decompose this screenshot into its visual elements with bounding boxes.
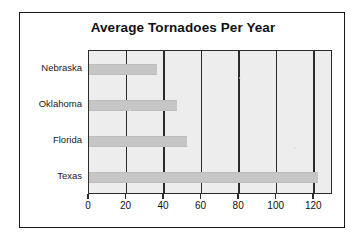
x-tick-label-60: 60 [181, 201, 221, 211]
x-tick-mark-60 [200, 194, 202, 199]
x-tick-label-0: 0 [68, 201, 108, 211]
bar-nebraska [89, 64, 157, 75]
category-label-florida: Florida [22, 135, 82, 145]
x-tick-label-20: 20 [106, 201, 146, 211]
x-tick-mark-80 [237, 194, 239, 199]
x-tick-mark-40 [162, 194, 164, 199]
bar-oklahoma [89, 100, 177, 111]
category-label-oklahoma: Oklahoma [22, 99, 82, 109]
plot-area [88, 50, 332, 194]
bar-row [89, 129, 332, 153]
bar-texas [89, 172, 318, 183]
bar-row [89, 165, 332, 189]
x-tick-label-120: 120 [293, 201, 333, 211]
bar-row [89, 57, 332, 81]
x-tick-mark-100 [275, 194, 277, 199]
chart-title: Average Tornadoes Per Year [20, 20, 346, 35]
x-tick-mark-20 [125, 194, 127, 199]
x-tick-label-80: 80 [218, 201, 258, 211]
category-label-nebraska: Nebraska [22, 63, 82, 73]
x-tick-mark-0 [87, 194, 89, 199]
bar-row [89, 93, 332, 117]
bar-florida [89, 136, 187, 147]
x-tick-mark-120 [312, 194, 314, 199]
chart-card: Average Tornadoes Per Year Nebraska Okla… [19, 12, 345, 228]
x-tick-label-40: 40 [143, 201, 183, 211]
category-label-texas: Texas [22, 171, 82, 181]
x-tick-label-100: 100 [256, 201, 296, 211]
